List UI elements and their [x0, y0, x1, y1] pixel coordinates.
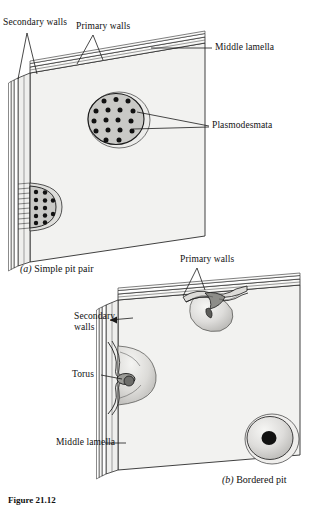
figure-cell-wall-pits: Secondary walls Primary walls Middle lam… [0, 0, 332, 505]
panel-b-artwork [97, 268, 301, 479]
figure-number: Figure 21.12 [8, 495, 56, 505]
label-middle-lamella-b: Middle lamella [56, 437, 115, 448]
caption-text-a: Simple pit pair [34, 263, 93, 274]
caption-text-b: Bordered pit [236, 474, 286, 485]
label-secondary-walls-a: Secondary walls [3, 17, 67, 28]
label-middle-lamella-a: Middle lamella [215, 42, 274, 53]
label-primary-walls-a: Primary walls [76, 21, 130, 32]
figure-artwork [0, 0, 332, 505]
label-secondary-walls-b: Secondary walls [74, 311, 132, 333]
label-torus: Torus [72, 369, 94, 380]
caption-panel-b: (b) Bordered pit [222, 474, 286, 485]
simple-pit-face [88, 92, 150, 148]
caption-marker-a: (a) [20, 263, 32, 274]
panel-a-artwork [9, 31, 213, 271]
caption-panel-a: (a) Simple pit pair [20, 263, 94, 274]
label-plasmodesmata: Plasmodesmata [212, 120, 272, 131]
bordered-pit-face [245, 414, 299, 464]
caption-marker-b: (b) [222, 474, 234, 485]
label-primary-walls-b: Primary walls [180, 254, 234, 265]
